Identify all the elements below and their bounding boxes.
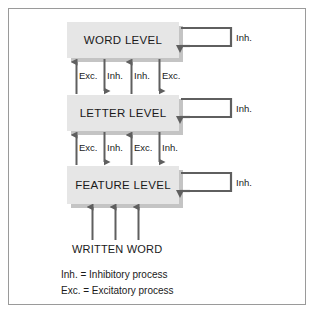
arrow-label-bottom-2: Inh. xyxy=(107,142,123,153)
arrow-label-bottom-3: Exc. xyxy=(134,142,152,153)
arrow-label-bottom-1: Exc. xyxy=(79,142,97,153)
feature-level-box[interactable]: FEATURE LEVEL xyxy=(67,166,179,204)
arrow-label-top-2: Inh. xyxy=(107,70,123,81)
arrow-label-top-4: Exc. xyxy=(162,70,180,81)
self-loop-label-feature: Inh. xyxy=(236,177,252,188)
legend-line-excitatory: Exc. = Excitatory process xyxy=(61,285,174,296)
letter-level-label: LETTER LEVEL xyxy=(80,107,167,119)
feature-level-label: FEATURE LEVEL xyxy=(75,179,171,191)
arrow-label-top-1: Exc. xyxy=(79,70,97,81)
self-loop-label-letter: Inh. xyxy=(236,103,252,114)
legend-line-inhibitory: Inh. = Inhibitory process xyxy=(61,269,167,280)
arrow-label-top-3: Inh. xyxy=(134,70,150,81)
interactive-activation-diagram: WORD LEVEL LETTER LEVEL FEATURE LEVEL xyxy=(0,0,314,313)
letter-level-box[interactable]: LETTER LEVEL xyxy=(67,95,179,131)
written-word-label: WRITTEN WORD xyxy=(72,243,162,255)
self-loop-label-word: Inh. xyxy=(236,32,252,43)
word-level-label: WORD LEVEL xyxy=(84,34,162,46)
arrow-label-bottom-4: Inh. xyxy=(162,142,178,153)
word-level-box[interactable]: WORD LEVEL xyxy=(67,22,179,58)
